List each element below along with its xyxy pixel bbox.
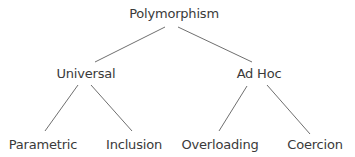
tree-edges: [0, 0, 355, 157]
edge-adhoc-coercion: [267, 85, 310, 134]
node-inclusion: Inclusion: [106, 137, 162, 153]
node-ad-hoc: Ad Hoc: [237, 66, 282, 82]
node-universal: Universal: [57, 66, 116, 82]
edge-polymorphism-adhoc: [178, 27, 252, 62]
node-parametric: Parametric: [9, 137, 77, 153]
edge-universal-parametric: [45, 85, 78, 131]
edge-polymorphism-universal: [95, 27, 165, 62]
node-polymorphism: Polymorphism: [129, 6, 219, 22]
edge-universal-inclusion: [91, 85, 132, 131]
node-overloading: Overloading: [182, 137, 259, 153]
edge-adhoc-overloading: [219, 86, 247, 131]
polymorphism-tree-diagram: Polymorphism Universal Ad Hoc Parametric…: [0, 0, 355, 157]
node-coercion: Coercion: [287, 137, 342, 153]
